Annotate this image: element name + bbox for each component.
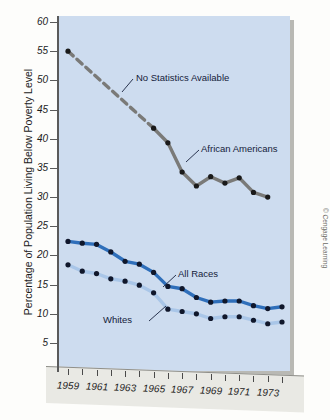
data-point-all-races <box>180 286 185 291</box>
data-point-whites <box>151 290 156 295</box>
data-point-all-races <box>65 239 70 244</box>
annotation-whites: Whites <box>103 314 132 325</box>
data-point-all-races <box>251 303 256 308</box>
copyright-credit: © Cengage Learning <box>322 208 329 268</box>
data-point-whites <box>279 319 284 324</box>
annotation-all-races: All Races <box>178 268 218 279</box>
leader-line-african-americans <box>186 150 199 162</box>
data-point-all-races <box>265 306 270 311</box>
data-point-all-races <box>208 300 213 305</box>
data-point-all-races <box>122 259 127 264</box>
series-line-whites <box>68 265 282 324</box>
data-point-african-americans <box>151 126 156 131</box>
data-point-whites <box>222 314 227 319</box>
data-point-african-americans <box>194 183 199 188</box>
series-layer <box>0 0 330 420</box>
data-point-whites <box>180 309 185 314</box>
data-point-whites <box>194 311 199 316</box>
data-point-all-races <box>151 270 156 275</box>
data-point-african-americans <box>265 194 270 199</box>
series-line-african-americans <box>154 128 268 197</box>
data-point-all-races <box>222 298 227 303</box>
data-point-all-races <box>108 249 113 254</box>
data-point-whites <box>122 279 127 284</box>
poverty-level-line-chart: 51015202530354045505560 1959196119631965… <box>0 0 330 420</box>
data-point-african-americans <box>165 140 170 145</box>
leader-line-whites <box>149 306 166 321</box>
data-point-all-races <box>237 298 242 303</box>
data-point-all-races <box>194 295 199 300</box>
data-point-all-races <box>80 241 85 246</box>
data-point-whites <box>265 321 270 326</box>
annotation-no-stats: No Statistics Available <box>136 72 229 83</box>
data-point-whites <box>94 271 99 276</box>
data-point-whites <box>208 316 213 321</box>
data-point-whites <box>108 276 113 281</box>
data-point-african-americans <box>65 49 70 54</box>
data-point-african-americans <box>237 175 242 180</box>
data-point-all-races <box>137 262 142 267</box>
data-point-all-races <box>94 242 99 247</box>
data-point-african-americans <box>222 180 227 185</box>
annotation-african-americans: African Americans <box>201 143 278 154</box>
data-point-whites <box>137 283 142 288</box>
data-point-whites <box>237 314 242 319</box>
leader-line-no-stats <box>122 79 133 92</box>
data-point-african-americans <box>180 169 185 174</box>
data-point-whites <box>251 318 256 323</box>
data-point-whites <box>165 307 170 312</box>
data-point-whites <box>65 262 70 267</box>
data-point-all-races <box>279 304 284 309</box>
data-point-whites <box>80 269 85 274</box>
data-point-african-americans <box>208 174 213 179</box>
data-point-african-americans <box>251 190 256 195</box>
series-line-african-americans-dashed <box>68 51 154 128</box>
